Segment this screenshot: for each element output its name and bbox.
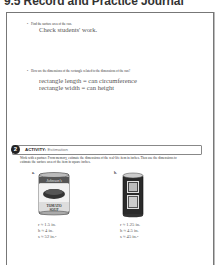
item-b-measurements: r ≈ 1.25 in. h ≈ 4.5 in. s ≈ 45 in.2: [120, 222, 140, 240]
svg-text:Johnson's: Johnson's: [46, 178, 62, 183]
item-a-letter: a.: [32, 171, 35, 175]
answer-2-line-1: rectangle length = can circumference: [39, 77, 137, 84]
question-prompt: How are the dimensions of the rectangle …: [31, 69, 130, 73]
activity-number-badge: 2: [11, 145, 20, 154]
page-header-title: 9.5 Record and Practice Journal: [4, 0, 184, 8]
question-2: • How are the dimensions of the rectangl…: [31, 69, 181, 73]
bullet-icon: •: [27, 22, 28, 26]
activity-label-text: ACTIVITY:: [25, 147, 46, 152]
bullet-icon: •: [27, 69, 28, 73]
soda-can-image: [122, 172, 144, 222]
activity-instructions: Work with a partner. From memory, estima…: [20, 156, 180, 165]
item-b-surface-area: s ≈ 45 in.2: [120, 234, 140, 240]
activity-title: Estimation: [47, 147, 68, 152]
item-b-letter: b.: [114, 171, 117, 175]
item-a-measurements: r ≈ 1.5 in. h ≈ 4 in. s ≈ 52 in.2: [38, 222, 56, 240]
tomato-soup-can-image: Johnson's TOMATO SOUP: [38, 172, 70, 220]
activity-header: 2 ACTIVITY: Estimation: [12, 145, 202, 155]
activity-label: ACTIVITY: Estimation: [25, 147, 68, 152]
answer-2-line-2: rectangle width = can height: [39, 84, 114, 91]
answer-1: Check students' work.: [39, 26, 97, 33]
item-a-surface-area: s ≈ 52 in.2: [38, 234, 56, 240]
